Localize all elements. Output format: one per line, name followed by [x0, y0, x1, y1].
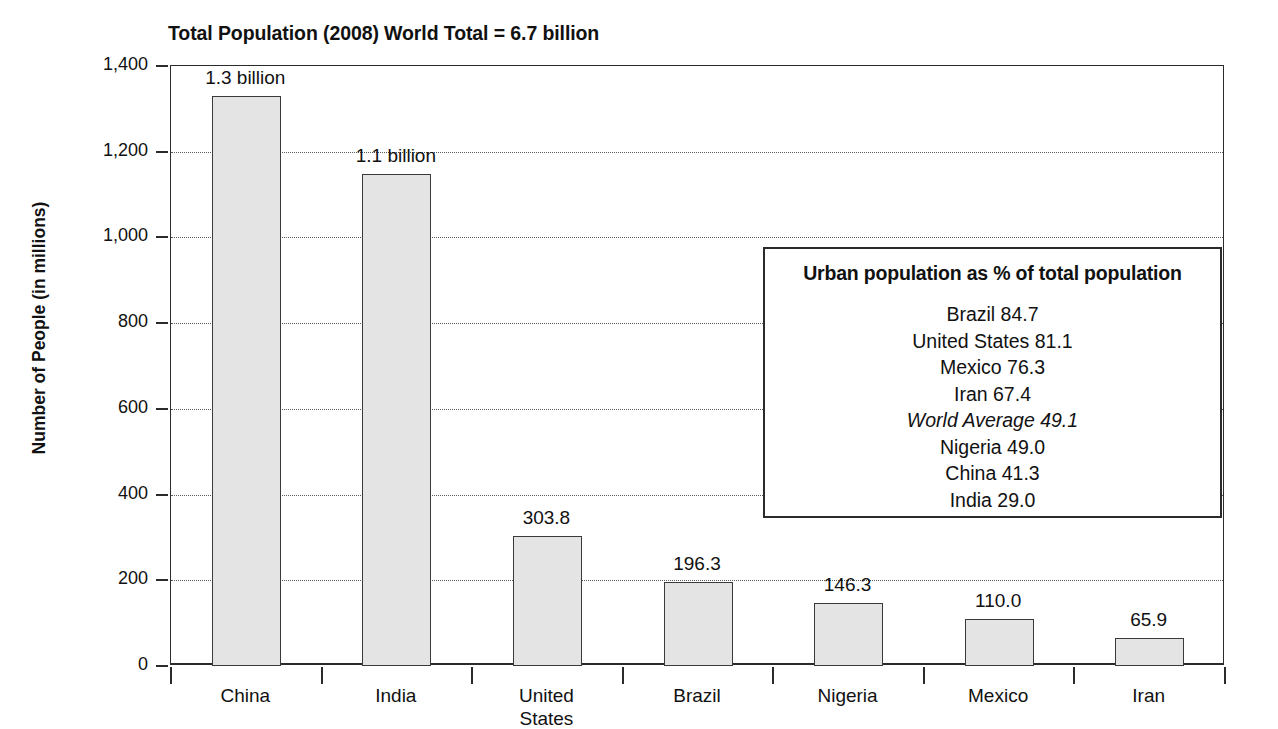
- y-axis-tick-label: 1,200: [103, 140, 148, 161]
- bar-value-label: 196.3: [617, 553, 777, 575]
- y-axis-tick-mark: [156, 236, 168, 238]
- y-axis-tick-label: 0: [138, 654, 148, 675]
- x-axis-tick-label: Mexico: [918, 684, 1078, 707]
- annotation-row: United States 81.1: [765, 328, 1220, 355]
- y-axis-tick-mark: [156, 322, 168, 324]
- y-axis-tick-mark: [156, 665, 168, 667]
- bar-value-label: 110.0: [918, 590, 1078, 612]
- bar[interactable]: [965, 619, 1034, 666]
- y-axis-tick-label: 600: [118, 397, 148, 418]
- bar-value-label: 1.3 billion: [165, 67, 325, 89]
- chart-title: Total Population (2008) World Total = 6.…: [168, 22, 599, 45]
- bar-value-label: 146.3: [768, 574, 928, 596]
- bar-value-label: 1.1 billion: [316, 145, 476, 167]
- bar[interactable]: [212, 96, 281, 666]
- x-axis-tick-mark: [1073, 667, 1075, 684]
- y-axis-tick-mark: [156, 579, 168, 581]
- y-axis-tick-mark: [156, 151, 168, 153]
- x-axis-tick-label: Iran: [1069, 684, 1229, 707]
- x-axis-tick-label: China: [165, 684, 325, 707]
- y-axis-tick-label: 1,400: [103, 54, 148, 75]
- bar[interactable]: [1115, 638, 1184, 666]
- annotation-row: Mexico 76.3: [765, 354, 1220, 381]
- x-axis-tick-label: Brazil: [617, 684, 777, 707]
- y-axis-tick-mark: [156, 494, 168, 496]
- y-axis-tick-label: 1,000: [103, 225, 148, 246]
- y-axis-title: Number of People (in millions): [26, 18, 52, 638]
- x-axis-tick-mark: [1224, 667, 1226, 684]
- annotation-row: Brazil 84.7: [765, 301, 1220, 328]
- annotation-row: India 29.0: [765, 487, 1220, 514]
- annotation-row: Nigeria 49.0: [765, 434, 1220, 461]
- annotation-row: World Average 49.1: [765, 407, 1220, 434]
- annotation-box: Urban population as % of total populatio…: [763, 247, 1222, 518]
- x-axis-tick-label: Nigeria: [768, 684, 928, 707]
- y-axis-tick-label: 800: [118, 311, 148, 332]
- x-axis-tick-mark: [170, 667, 172, 684]
- y-axis-tick-label: 400: [118, 483, 148, 504]
- x-axis-tick-mark: [772, 667, 774, 684]
- bar[interactable]: [513, 536, 582, 666]
- annotation-title: Urban population as % of total populatio…: [765, 262, 1220, 285]
- x-axis-tick-mark: [471, 667, 473, 684]
- annotation-list: Brazil 84.7United States 81.1Mexico 76.3…: [765, 301, 1220, 513]
- gridline: [171, 237, 1223, 238]
- x-axis-tick-mark: [622, 667, 624, 684]
- x-axis-tick-label: India: [316, 684, 476, 707]
- annotation-row: China 41.3: [765, 460, 1220, 487]
- bar-value-label: 303.8: [466, 507, 626, 529]
- y-axis-tick-label: 200: [118, 568, 148, 589]
- x-axis-tick-label: United States: [466, 684, 626, 729]
- annotation-row: Iran 67.4: [765, 381, 1220, 408]
- bar[interactable]: [814, 603, 883, 666]
- x-axis-tick-mark: [923, 667, 925, 684]
- bar-value-label: 65.9: [1069, 609, 1229, 631]
- y-axis-tick-mark: [156, 408, 168, 410]
- bar[interactable]: [664, 582, 733, 666]
- bar[interactable]: [362, 174, 431, 666]
- chart-canvas: Total Population (2008) World Total = 6.…: [0, 0, 1278, 729]
- x-axis-tick-mark: [321, 667, 323, 684]
